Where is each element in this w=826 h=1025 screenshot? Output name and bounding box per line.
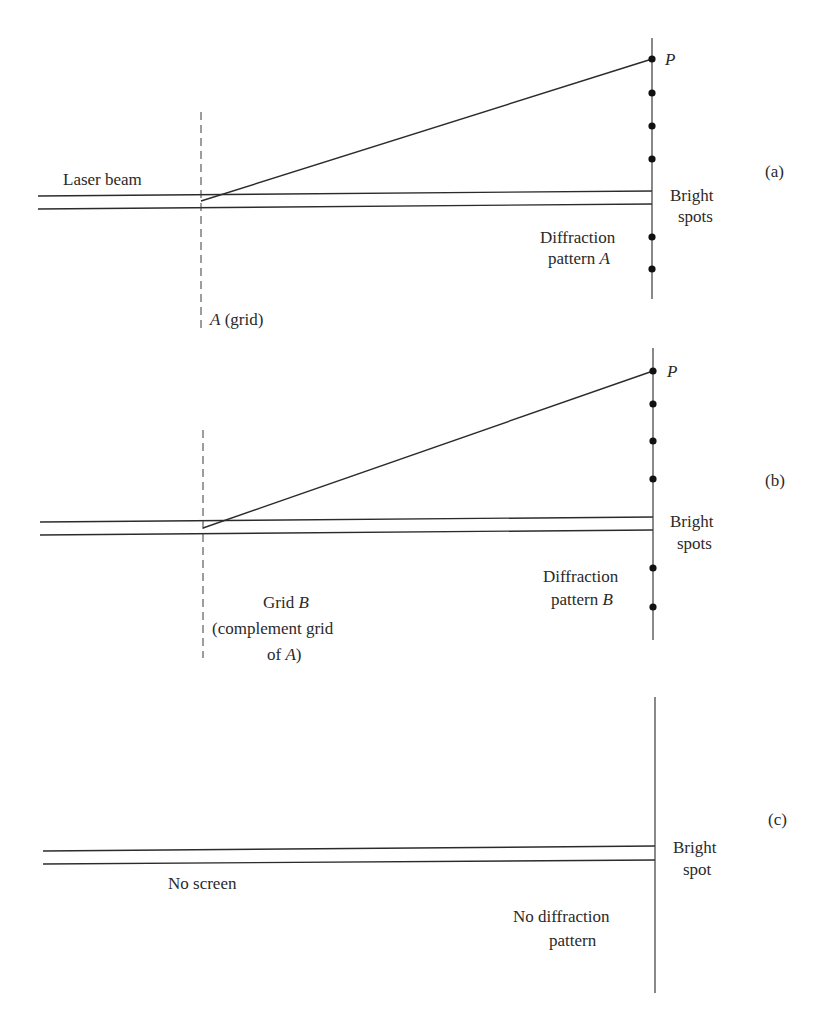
diffraction-pattern-label-line2: pattern A bbox=[548, 249, 610, 268]
grid-letter: B bbox=[298, 593, 309, 612]
grid-a-label: A (grid) bbox=[209, 310, 263, 329]
bright-spot bbox=[649, 603, 656, 610]
diffraction-pattern-label-line2: pattern B bbox=[551, 590, 613, 609]
laser-beam-bottom-edge bbox=[38, 204, 652, 209]
laser-beam-top-edge bbox=[43, 846, 655, 851]
laser-beam-bottom-edge bbox=[43, 860, 655, 864]
bright-spot-label-line2: spot bbox=[683, 860, 712, 879]
grid-b-label-line1: Grid B bbox=[263, 593, 309, 612]
pattern-letter: A bbox=[598, 249, 610, 268]
bright-spots-label-line1: Bright bbox=[670, 186, 714, 205]
panel-c: (c) Bright spot No screen No diffraction… bbox=[43, 697, 787, 993]
diffracted-ray bbox=[203, 371, 653, 528]
bright-spot bbox=[649, 437, 656, 444]
laser-beam-top-edge bbox=[38, 191, 652, 196]
point-p-label: P bbox=[666, 362, 677, 381]
bright-spot bbox=[648, 89, 655, 96]
diffraction-pattern-label-line1: Diffraction bbox=[543, 567, 619, 586]
babinet-diagram: Laser beam A (grid) P (a) Bright spots D… bbox=[0, 0, 826, 1025]
bright-spots-label-line2: spots bbox=[678, 207, 713, 226]
bright-spots-label-line1: Bright bbox=[670, 512, 714, 531]
bright-spot-label-line1: Bright bbox=[673, 838, 717, 857]
bright-spot-p bbox=[648, 55, 655, 62]
bright-spot bbox=[649, 400, 656, 407]
bright-spot bbox=[649, 475, 656, 482]
grid-b-label-line3: of A) bbox=[267, 645, 301, 664]
of-word: of bbox=[267, 645, 285, 664]
grid-word: Grid bbox=[263, 593, 298, 612]
panel-a: Laser beam A (grid) P (a) Bright spots D… bbox=[38, 38, 784, 330]
laser-beam-bottom-edge bbox=[40, 530, 653, 535]
no-diffraction-label-line1: No diffraction bbox=[513, 907, 610, 926]
panel-label-a: (a) bbox=[765, 162, 784, 181]
close-paren: ) bbox=[296, 645, 302, 664]
panel-label-c: (c) bbox=[768, 810, 787, 829]
no-diffraction-label-line2: pattern bbox=[549, 931, 597, 950]
point-p-label: P bbox=[664, 50, 675, 69]
pattern-word: pattern bbox=[548, 249, 599, 268]
a-letter: A bbox=[284, 645, 296, 664]
panel-b: P (b) Bright spots Diffraction pattern B… bbox=[40, 348, 785, 664]
diffraction-pattern-label-line1: Diffraction bbox=[540, 228, 616, 247]
bright-spot bbox=[648, 265, 655, 272]
grid-a-label-italic: A bbox=[209, 310, 221, 329]
diffracted-ray bbox=[201, 59, 652, 201]
panel-label-b: (b) bbox=[765, 471, 785, 490]
no-screen-label: No screen bbox=[168, 874, 237, 893]
laser-beam-label: Laser beam bbox=[63, 170, 142, 189]
bright-spot bbox=[649, 564, 656, 571]
grid-b-label-line2: (complement grid bbox=[212, 619, 334, 638]
laser-beam-top-edge bbox=[40, 517, 653, 522]
bright-spot-p bbox=[649, 367, 656, 374]
bright-spot bbox=[648, 122, 655, 129]
pattern-letter: B bbox=[602, 590, 613, 609]
bright-spots-label-line2: spots bbox=[677, 534, 712, 553]
pattern-word: pattern bbox=[551, 590, 602, 609]
bright-spot bbox=[648, 233, 655, 240]
grid-a-label-rest: (grid) bbox=[220, 310, 263, 329]
bright-spot bbox=[648, 155, 655, 162]
